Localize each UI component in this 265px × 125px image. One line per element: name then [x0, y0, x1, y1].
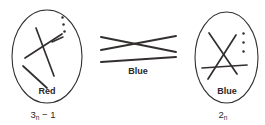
left-strand-b: [36, 28, 54, 76]
middle-strand-b: [101, 36, 176, 50]
right-tangle-inner-label: Blue: [217, 86, 237, 96]
right-ellipsis-dot-2: [242, 41, 245, 44]
middle-strand-c: [101, 57, 176, 62]
middle-tangle-label: Blue: [128, 66, 148, 76]
left-ellipsis-dot-1: [61, 16, 64, 19]
left-caption-tail: − 1: [39, 109, 55, 120]
right-tangle-caption: 2n: [219, 109, 228, 121]
right-ellipsis-dot-3: [242, 50, 245, 53]
left-strand-d: [23, 66, 47, 88]
right-ellipsis-dot-1: [242, 32, 245, 35]
left-tangle-caption: 3n − 1: [30, 109, 55, 121]
left-tangle-inner-label: Red: [38, 86, 55, 96]
left-ellipsis-dot-2: [62, 23, 65, 26]
right-strand-c: [202, 65, 247, 68]
right-caption-subscript: n: [224, 114, 228, 121]
left-ellipsis-dot-3: [63, 30, 66, 33]
middle-strand-a: [101, 37, 176, 52]
right-tangle-group: Blue: [195, 12, 258, 103]
right-strand-b: [208, 35, 236, 79]
tangle-diagram-figure: Red 3n − 1 Blue Blue 2n: [0, 0, 265, 125]
diagram-canvas: Red 3n − 1 Blue Blue 2n: [0, 0, 265, 125]
middle-tangle-group: Blue: [101, 36, 176, 76]
left-tangle-group: Red: [12, 10, 82, 103]
